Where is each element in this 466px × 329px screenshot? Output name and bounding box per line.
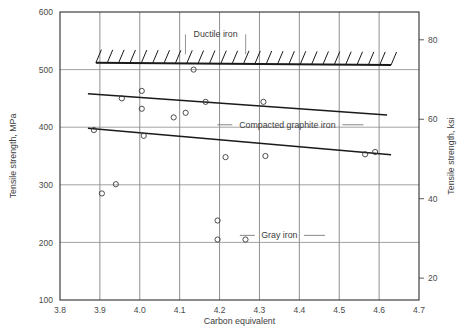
x-tick-label: 3.9 bbox=[94, 305, 106, 315]
x-axis-title: Carbon equivalent bbox=[204, 316, 276, 326]
y-tick-label: 600 bbox=[39, 7, 53, 17]
x-tick-label: 4.3 bbox=[254, 305, 266, 315]
y2-tick-label: 20 bbox=[428, 273, 438, 283]
y2-tick-label: 80 bbox=[428, 35, 438, 45]
x-tick-label: 4.7 bbox=[413, 305, 425, 315]
x-tick-label: 4.1 bbox=[174, 305, 186, 315]
annotation-label-compacted-graphite-iron: Compacted graphite iron bbox=[239, 120, 335, 130]
y-axis-title: Tensile strength, MPa bbox=[8, 114, 18, 199]
tensile-strength-vs-carbon-equivalent-chart: 3.83.94.04.14.24.34.44.54.64.71002003004… bbox=[0, 0, 466, 329]
x-tick-label: 4.5 bbox=[333, 305, 345, 315]
x-tick-label: 3.8 bbox=[54, 305, 66, 315]
chart-background bbox=[0, 0, 466, 329]
x-tick-label: 4.0 bbox=[134, 305, 146, 315]
y-tick-label: 300 bbox=[39, 180, 53, 190]
annotation-label-ductile-iron: Ductile iron bbox=[194, 29, 238, 39]
y-tick-label: 400 bbox=[39, 122, 53, 132]
y2-tick-label: 60 bbox=[428, 114, 438, 124]
y-tick-label: 500 bbox=[39, 65, 53, 75]
x-tick-label: 4.4 bbox=[293, 305, 305, 315]
y-tick-label: 100 bbox=[39, 295, 53, 305]
y-tick-label: 200 bbox=[39, 238, 53, 248]
y2-tick-label: 40 bbox=[428, 194, 438, 204]
chart-container: 3.83.94.04.14.24.34.44.54.64.71002003004… bbox=[0, 0, 466, 329]
x-tick-label: 4.6 bbox=[373, 305, 385, 315]
annotation-label-gray-iron: Gray iron bbox=[261, 230, 297, 240]
y2-axis-title: Tensile strength, ksi bbox=[446, 117, 456, 194]
x-tick-label: 4.2 bbox=[214, 305, 226, 315]
